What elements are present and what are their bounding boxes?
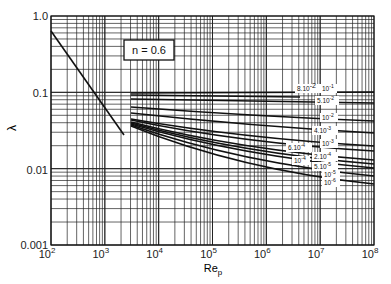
y-tick-0.1: 0.1 <box>33 87 48 99</box>
friction-factor-chart: 8.10-2 10-1 5.10-2 10-2 4.10-3 10-3 6.10… <box>0 0 391 284</box>
curve-labels: 8.10-2 10-1 5.10-2 10-2 4.10-3 10-3 6.10… <box>286 82 340 187</box>
curve-1e-1 <box>131 92 374 93</box>
x-tick-label: 102 <box>39 246 56 260</box>
x-tick-label: 104 <box>146 246 163 260</box>
x-tick-label: 103 <box>92 246 109 260</box>
x-tick-labels: 102103104105106107108 <box>39 246 379 260</box>
y-tick-0.01: 0.01 <box>27 164 48 176</box>
x-tick-label: 106 <box>254 246 271 260</box>
x-tick-label: 108 <box>362 246 379 260</box>
annotation-text: n = 0.6 <box>132 44 166 56</box>
y-axis-label: λ <box>5 125 19 131</box>
y-tick-1: 1.0 <box>33 10 48 22</box>
x-tick-label: 105 <box>200 246 217 260</box>
x-tick-label: 107 <box>308 246 325 260</box>
x-axis-label: Rep <box>204 262 223 277</box>
